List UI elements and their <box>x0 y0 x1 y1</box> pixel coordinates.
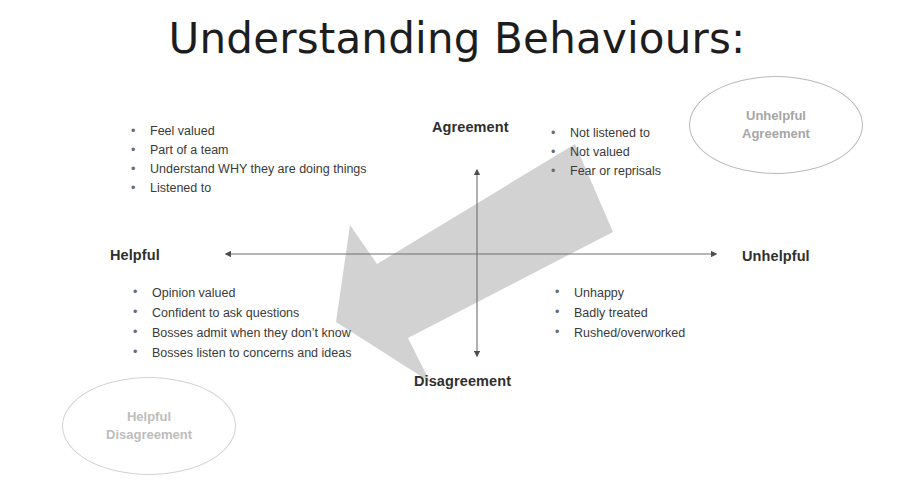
list-item: • Opinion valued <box>130 283 351 303</box>
list-item: • Fear or reprisals <box>548 162 661 181</box>
bullet-icon: • <box>131 179 135 198</box>
callout-line-2: Agreement <box>742 125 810 143</box>
list-item-label: Unhappy <box>574 286 624 300</box>
list-item-label: Confident to ask questions <box>152 306 299 320</box>
list-item: • Bosses admit when they don’t know <box>130 323 351 343</box>
callout-line-1: Helpful <box>106 408 192 426</box>
list-item-label: Not listened to <box>570 126 650 140</box>
bullet-icon: • <box>133 323 137 342</box>
bullet-icon: • <box>555 283 559 302</box>
list-item: • Confident to ask questions <box>130 303 351 323</box>
quadrant-list-top-right: • Not listened to • Not valued • Fear or… <box>548 124 661 181</box>
list-item-label: Opinion valued <box>152 286 235 300</box>
callout-oval-unhelpful-agreement: Unhelpful Agreement <box>689 76 863 174</box>
bullet-icon: • <box>133 343 137 362</box>
list-item: • Not valued <box>548 143 661 162</box>
quadrant-list-bottom-right: • Unhappy • Badly treated • Rushed/overw… <box>552 283 685 343</box>
list-item-label: Fear or reprisals <box>570 164 661 178</box>
axis-label-disagreement: Disagreement <box>414 373 511 389</box>
bullet-icon: • <box>133 283 137 302</box>
list-item: • Not listened to <box>548 124 661 143</box>
list-item-label: Rushed/overworked <box>574 326 685 340</box>
list-item: • Bosses listen to concerns and ideas <box>130 343 351 363</box>
list-item: • Badly treated <box>552 303 685 323</box>
axis-label-agreement: Agreement <box>432 119 509 135</box>
callout-oval-helpful-disagreement: Helpful Disagreement <box>62 377 236 475</box>
callout-text: Unhelpful Agreement <box>742 107 810 143</box>
list-item-label: Bosses admit when they don’t know <box>152 326 351 340</box>
list-item-label: Feel valued <box>150 124 215 138</box>
slide-canvas: Understanding Behaviours: Agreement D <box>0 0 914 495</box>
bullet-icon: • <box>551 124 555 143</box>
bullet-icon: • <box>551 162 555 181</box>
bullet-icon: • <box>555 303 559 322</box>
list-item: • Feel valued <box>128 122 367 141</box>
list-item: • Unhappy <box>552 283 685 303</box>
list-item-label: Badly treated <box>574 306 648 320</box>
behaviour-matrix-diagram: Agreement Disagreement Helpful Unhelpful… <box>0 0 914 495</box>
callout-line-1: Unhelpful <box>742 107 810 125</box>
bullet-icon: • <box>555 323 559 342</box>
callout-text: Helpful Disagreement <box>106 408 192 444</box>
quadrant-list-top-left: • Feel valued • Part of a team • Underst… <box>128 122 367 198</box>
callout-line-2: Disagreement <box>106 426 192 444</box>
list-item-label: Part of a team <box>150 143 229 157</box>
bullet-icon: • <box>131 141 135 160</box>
bullet-icon: • <box>131 160 135 179</box>
list-item-label: Understand WHY they are doing things <box>150 162 367 176</box>
list-item-label: Bosses listen to concerns and ideas <box>152 346 351 360</box>
axis-label-helpful: Helpful <box>110 247 160 263</box>
list-item-label: Not valued <box>570 145 630 159</box>
list-item: • Listened to <box>128 179 367 198</box>
list-item-label: Listened to <box>150 181 211 195</box>
bullet-icon: • <box>131 122 135 141</box>
bullet-icon: • <box>551 143 555 162</box>
list-item: • Part of a team <box>128 141 367 160</box>
list-item: • Rushed/overworked <box>552 323 685 343</box>
list-item: • Understand WHY they are doing things <box>128 160 367 179</box>
axis-label-unhelpful: Unhelpful <box>742 248 810 264</box>
quadrant-list-bottom-left: • Opinion valued • Confident to ask ques… <box>130 283 351 363</box>
bullet-icon: • <box>133 303 137 322</box>
